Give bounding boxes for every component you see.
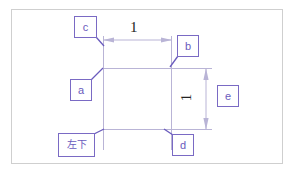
figure-canvas: c b a e d 左下 1 1: [0, 0, 295, 173]
callout-label-c[interactable]: c: [74, 16, 97, 38]
horizontal-dimension-arrow-left: [103, 37, 114, 42]
callout-label-d[interactable]: d: [172, 134, 194, 156]
main-rectangle: [104, 69, 172, 130]
vertical-dimension-arrow-bottom: [203, 118, 208, 130]
drawing-layer: [0, 0, 295, 173]
vertical-dimension-value: 1: [179, 94, 194, 102]
callout-label-e[interactable]: e: [217, 85, 239, 107]
horizontal-dimension-value: 1: [130, 20, 138, 35]
callout-label-b[interactable]: b: [177, 35, 199, 57]
horizontal-dimension-arrow-right: [161, 37, 172, 42]
callout-label-bottom-left[interactable]: 左下: [58, 133, 95, 157]
vertical-dimension-arrow-top: [203, 68, 208, 80]
leader-line-a: [91, 68, 103, 80]
leader-line-bottom-left: [94, 129, 104, 134]
callout-label-a[interactable]: a: [70, 79, 92, 101]
leader-line-c: [96, 37, 104, 46]
